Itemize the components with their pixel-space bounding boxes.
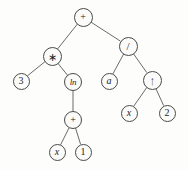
tree-node-label: ↑ (150, 73, 155, 86)
tree-node-label: + (70, 115, 76, 125)
tree-node-leaf-n5: a (101, 73, 118, 90)
edge-root-to-divide (91, 22, 120, 41)
tree-node-label: 3 (19, 76, 24, 86)
tree-node-label: a (107, 76, 112, 86)
tree-node-add-n7: + (64, 111, 82, 129)
edge-root-to-multiply (58, 24, 77, 48)
edge-power-to-x (134, 88, 147, 106)
tree-node-leaf-n9: 2 (159, 105, 176, 122)
tree-node-label: 2 (165, 108, 170, 118)
edge-add-to-one (76, 129, 81, 144)
edge-add-to-x (61, 128, 69, 144)
tree-node-leaf-n11: 1 (75, 144, 92, 161)
edge-divide-to-power (133, 54, 146, 72)
tree-node-leaf-n10: x (49, 144, 66, 161)
tree-node-label: x (127, 108, 131, 118)
tree-node-divide-n2: / (119, 37, 138, 56)
tree-node-root-n0: + (74, 8, 93, 27)
tree-node-leaf-n3: 3 (13, 73, 30, 90)
edge-power-to-two (156, 89, 164, 106)
tree-node-label: / (126, 40, 129, 51)
tree-node-label: x (55, 147, 59, 157)
tree-node-leaf-n8: x (121, 105, 138, 122)
expression-tree-figure: +∗/3lna↑+x2x1 (0, 0, 188, 170)
tree-node-power-n6: ↑ (143, 71, 162, 90)
tree-node-label: ∗ (48, 51, 57, 62)
tree-node-label: + (80, 12, 86, 22)
tree-node-natural-log-n4: ln (64, 73, 82, 91)
tree-node-multiply-n1: ∗ (43, 47, 62, 66)
tree-node-label: 1 (81, 147, 86, 157)
tree-node-label: ln (70, 77, 77, 86)
edge-divide-to-a (113, 54, 123, 73)
edge-multiply-to-ln (58, 63, 67, 75)
edge-multiply-to-three (28, 62, 45, 76)
